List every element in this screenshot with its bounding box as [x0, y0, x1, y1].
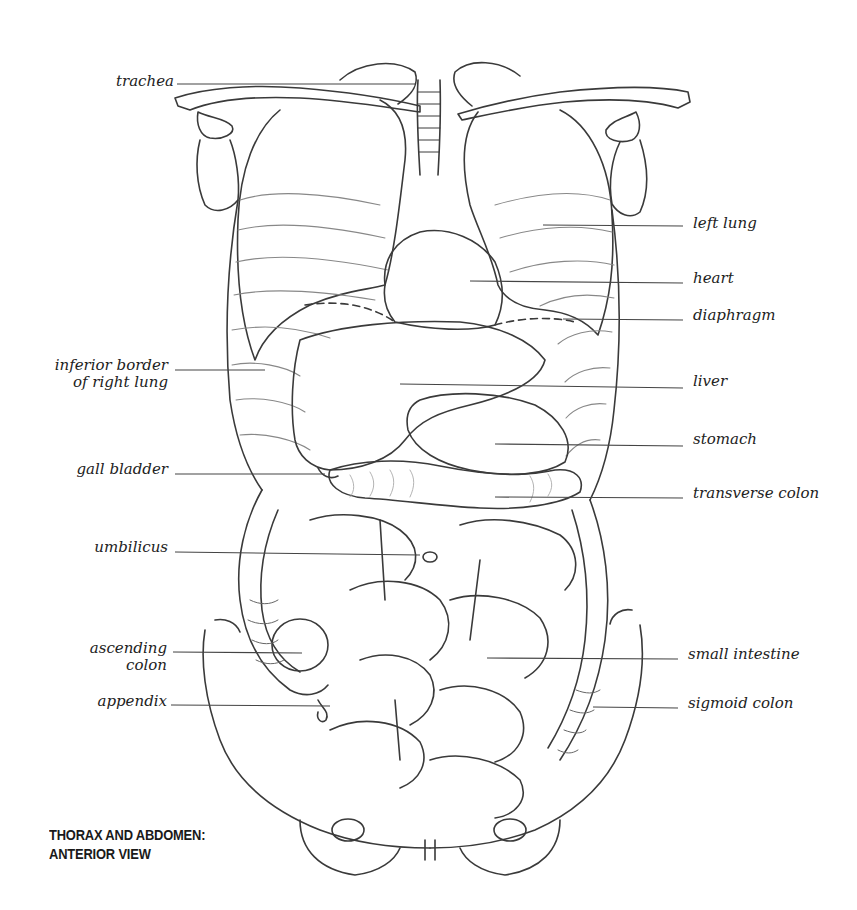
leader-line-appendix — [171, 705, 330, 706]
stomach-outline — [407, 394, 568, 475]
leader-line-small-intestine — [487, 658, 678, 659]
leader-line-sigmoid-colon — [593, 707, 678, 708]
small-intestine-loops — [310, 515, 576, 818]
leader-line-liver — [400, 384, 683, 388]
sigmoid-colon-shape — [548, 500, 608, 760]
label-trachea: trachea — [114, 73, 174, 90]
label-appendix: appendix — [80, 693, 167, 710]
label-heart: heart — [693, 270, 734, 287]
left-lung-outline — [464, 110, 613, 335]
clavicles — [175, 63, 690, 142]
label-transverse-colon: transverse colon — [693, 485, 819, 502]
appendix-shape — [318, 700, 327, 722]
anatomy-figure: trachea inferior border of right lung ga… — [0, 0, 857, 910]
leader-line-ascending-colon — [173, 652, 302, 653]
label-stomach: stomach — [693, 431, 757, 448]
torso-outline — [227, 200, 262, 490]
label-diaphragm: diaphragm — [693, 307, 776, 324]
thorax-abdomen-illustration — [0, 0, 857, 910]
label-gall-bladder: gall bladder — [60, 461, 168, 478]
label-inferior-border-of-right-lung: inferior border of right lung — [30, 357, 168, 391]
pelvis-outline — [203, 610, 642, 875]
liver-outline — [292, 322, 545, 470]
label-left-lung: left lung — [693, 215, 757, 232]
label-small-intestine: small intestine — [688, 646, 800, 663]
label-liver: liver — [693, 373, 727, 390]
left-shoulder — [610, 140, 646, 216]
leader-line-stomach — [495, 444, 683, 446]
umbilicus-shape — [423, 552, 437, 562]
transverse-colon-outline — [329, 461, 581, 508]
right-shoulder — [197, 140, 239, 210]
label-ascending-colon: ascending colon — [70, 640, 167, 674]
figure-caption: THORAX AND ABDOMEN: ANTERIOR VIEW — [49, 825, 205, 863]
ascending-colon-shape — [239, 490, 328, 695]
leader-line-left-lung — [543, 225, 683, 226]
leader-line-umbilicus — [175, 552, 420, 555]
label-umbilicus: umbilicus — [75, 539, 168, 556]
right-lung-outline — [238, 100, 406, 360]
torso-outline-left — [590, 210, 619, 500]
label-sigmoid-colon: sigmoid colon — [688, 695, 793, 712]
caption-line-2: ANTERIOR VIEW — [49, 844, 205, 863]
leader-line-transverse-colon — [495, 497, 683, 498]
leader-line-diaphragm — [563, 319, 683, 320]
caption-line-1: THORAX AND ABDOMEN: — [49, 825, 205, 844]
